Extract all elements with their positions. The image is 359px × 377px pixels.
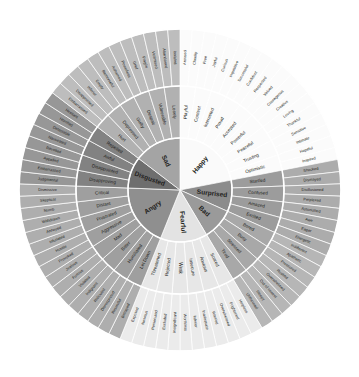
middle-label-weak: Weak bbox=[178, 262, 183, 274]
outer-label-dismissive: Dismissive bbox=[38, 187, 57, 192]
middle-label-critical: Critical bbox=[95, 190, 109, 196]
middle-label-confused: Confused bbox=[248, 190, 268, 196]
feelings-wheel-container: HappyPlayfulArousedCheekyContentFreeJoyf… bbox=[0, 0, 359, 377]
outer-label-insignificant: Insignificant bbox=[172, 311, 178, 333]
outer-label-worthless: Worthless bbox=[183, 314, 189, 331]
feelings-wheel-diagram: HappyPlayfulArousedCheekyContentFreeJoyf… bbox=[0, 0, 359, 377]
outer-label-aroused: Aroused bbox=[182, 50, 188, 65]
outer-label-disillusioned: Disillusioned bbox=[302, 187, 324, 192]
middle-label-playful: Playful bbox=[183, 105, 189, 119]
outer-label-isolated: Isolated bbox=[173, 51, 179, 65]
